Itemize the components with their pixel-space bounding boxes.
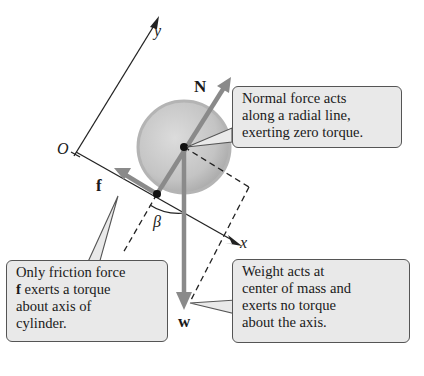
weight-force-label: w bbox=[178, 312, 190, 332]
weight-callout-line-4: about the axis. bbox=[242, 314, 402, 331]
contact-point bbox=[153, 190, 161, 198]
weight-callout: Weight acts at center of mass and exerts… bbox=[232, 259, 410, 343]
weight-callout-line-3: exerts no torque bbox=[242, 297, 402, 314]
friction-callout-line-3: about axis of bbox=[16, 298, 160, 315]
y-axis-label: y bbox=[154, 22, 161, 40]
angle-beta-label: β bbox=[153, 213, 161, 231]
friction-callout-line-1: Only friction force bbox=[16, 264, 160, 281]
friction-force-callout: Only friction force f exerts a torque ab… bbox=[6, 260, 168, 342]
x-axis-label: x bbox=[240, 234, 247, 252]
normal-force-callout: Normal force acts along a radial line, e… bbox=[232, 86, 402, 148]
origin-label: O bbox=[57, 140, 69, 158]
weight-callout-line-1: Weight acts at bbox=[242, 263, 402, 280]
normal-callout-line-2: along a radial line, bbox=[242, 107, 394, 124]
friction-callout-line-2: exerts a torque bbox=[25, 281, 111, 297]
friction-callout-line-4: cylinder. bbox=[16, 315, 160, 332]
friction-bold-symbol: f bbox=[16, 281, 21, 297]
normal-callout-line-1: Normal force acts bbox=[242, 90, 394, 107]
normal-callout-line-3: exerting zero torque. bbox=[242, 124, 394, 141]
normal-force-label: N bbox=[194, 77, 206, 97]
center-of-mass-point bbox=[180, 143, 188, 151]
friction-force-label: f bbox=[96, 176, 102, 196]
weight-callout-line-2: center of mass and bbox=[242, 280, 402, 297]
